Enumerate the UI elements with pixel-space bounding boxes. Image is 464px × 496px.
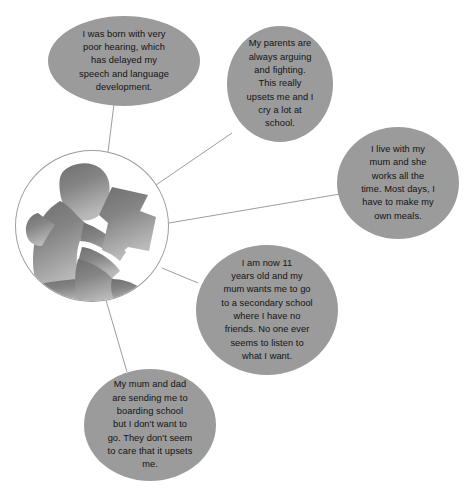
child-reading-silhouette-icon — [16, 151, 169, 302]
center-node-child — [15, 150, 169, 302]
bubble-hearing[interactable]: I was born with very poor hearing, which… — [48, 16, 200, 106]
bubble-secondary-school-text: I am now 11 years old and my mum wants m… — [215, 257, 319, 363]
bubble-parents-arguing[interactable]: My parents are always arguing and fighti… — [227, 26, 333, 142]
bubble-secondary-school[interactable]: I am now 11 years old and my mum wants m… — [196, 245, 338, 375]
bubble-mum-works[interactable]: I live with my mum and she works all the… — [337, 127, 459, 239]
bubble-boarding-school-text: My mum and dad are sending me to boardin… — [102, 378, 199, 471]
bubble-boarding-school[interactable]: My mum and dad are sending me to boardin… — [84, 369, 216, 481]
concept-map-diagram: I was born with very poor hearing, which… — [0, 0, 464, 496]
connector-center-to-hearing — [108, 104, 114, 152]
connector-center-to-boarding-school — [106, 300, 127, 372]
bubble-mum-works-text: I live with my mum and she works all the… — [355, 143, 441, 223]
bubble-parents-arguing-text: My parents are always arguing and fighti… — [241, 37, 320, 130]
bubble-hearing-text: I was born with very poor hearing, which… — [73, 28, 175, 94]
connector-center-to-mum-works — [169, 194, 340, 223]
